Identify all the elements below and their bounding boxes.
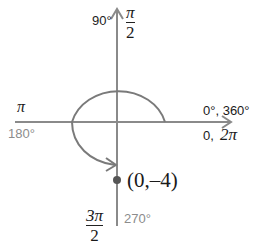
label-180-degrees: 180° (8, 127, 35, 140)
label-270-degrees: 270° (124, 212, 151, 225)
3pi-over-2-denominator: 2 (90, 227, 99, 241)
label-zero-radians: 0, (203, 129, 214, 142)
label-pi-over-2: π 2 (126, 4, 135, 41)
rotation-arc (72, 91, 165, 165)
point-label: (0,–4) (127, 170, 178, 191)
pi-over-2-denominator: 2 (126, 24, 135, 41)
pi-over-2-numerator: π (126, 4, 135, 21)
3pi-over-2-numerator: 3π (86, 207, 103, 224)
label-0-360-degrees: 0°, 360° (203, 104, 250, 117)
label-2pi: 2π (220, 126, 237, 143)
label-90-degrees: 90° (92, 14, 112, 27)
label-pi: π (17, 99, 25, 115)
label-3pi-over-2: 3π 2 (86, 207, 103, 241)
point-marker (113, 176, 121, 184)
